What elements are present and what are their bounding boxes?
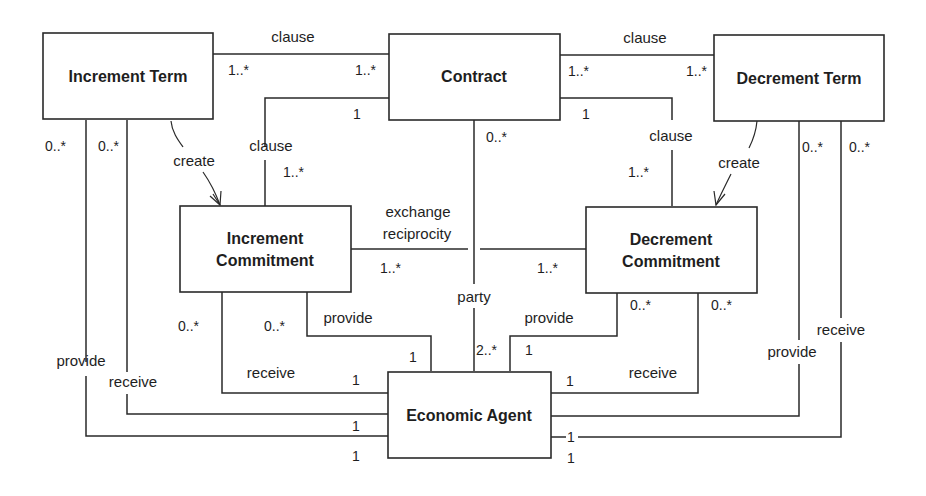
multiplicity: 1 — [409, 349, 417, 365]
assoc-dc-provide — [510, 292, 617, 371]
uml-diagram: Increment Term Contract Decrement Term I… — [0, 0, 926, 496]
assoc-it-receive-b — [127, 394, 388, 414]
multiplicity: 0..* — [45, 138, 67, 154]
multiplicity: 0..* — [98, 138, 120, 154]
multiplicity: 1..* — [568, 63, 590, 79]
label-receive: receive — [817, 321, 865, 338]
create-dep-left-a — [171, 121, 183, 147]
multiplicity: 1 — [525, 342, 533, 358]
label-create: create — [173, 152, 215, 169]
multiplicity: 1..* — [355, 62, 377, 78]
multiplicity: 1..* — [628, 164, 650, 180]
class-increment-term[interactable]: Increment Term — [43, 33, 213, 119]
multiplicity: 1 — [582, 106, 590, 122]
class-name-line1: Decrement — [630, 231, 713, 248]
create-dep-right-b — [716, 174, 731, 205]
label-party: party — [457, 288, 491, 305]
class-name-line2: Commitment — [216, 252, 314, 269]
multiplicity: 1..* — [686, 63, 708, 79]
class-name-line2: Commitment — [622, 253, 720, 270]
label-provide: provide — [524, 309, 573, 326]
multiplicity: 0..* — [178, 318, 200, 334]
class-name: Contract — [441, 68, 507, 85]
multiplicity: 0..* — [486, 129, 508, 145]
multiplicity: 1 — [566, 373, 574, 389]
label-provide: provide — [323, 309, 372, 326]
multiplicity: 1 — [352, 372, 360, 388]
label-exchange: exchange — [385, 203, 450, 220]
label-receive: receive — [629, 364, 677, 381]
multiplicity: 0..* — [802, 139, 824, 155]
label-clause: clause — [271, 28, 314, 45]
label-create: create — [718, 154, 760, 171]
multiplicity: 1..* — [380, 260, 402, 276]
multiplicity: 1..* — [537, 260, 559, 276]
class-decrement-commitment[interactable]: Decrement Commitment — [586, 207, 757, 293]
class-name: Increment Term — [69, 68, 188, 85]
multiplicity: 1..* — [283, 164, 305, 180]
class-decrement-term[interactable]: Decrement Term — [714, 35, 884, 121]
multiplicity: 1 — [352, 418, 360, 434]
label-clause: clause — [249, 137, 292, 154]
class-name-line1: Increment — [227, 230, 304, 247]
multiplicity: 0..* — [264, 318, 286, 334]
multiplicity: 1 — [353, 106, 361, 122]
class-economic-agent[interactable]: Economic Agent — [388, 372, 551, 458]
class-name: Decrement Term — [736, 70, 861, 87]
label-clause: clause — [623, 29, 666, 46]
label-clause: clause — [649, 127, 692, 144]
multiplicity: 1 — [567, 450, 575, 466]
multiplicity: 2..* — [476, 342, 498, 358]
class-increment-commitment[interactable]: Increment Commitment — [180, 206, 351, 292]
label-receive: receive — [109, 373, 157, 390]
multiplicity: 0..* — [711, 297, 733, 313]
label-reciprocity: reciprocity — [383, 225, 452, 242]
create-dep-right-a — [749, 121, 757, 148]
multiplicity: 0..* — [630, 297, 652, 313]
class-name: Economic Agent — [406, 407, 532, 424]
label-provide: provide — [767, 343, 816, 360]
label-provide: provide — [56, 352, 105, 369]
multiplicity: 1..* — [228, 62, 250, 78]
multiplicity: 0..* — [849, 139, 871, 155]
multiplicity: 1 — [352, 448, 360, 464]
assoc-contract-dc-a — [560, 98, 672, 120]
label-receive: receive — [247, 364, 295, 381]
class-contract[interactable]: Contract — [389, 34, 560, 120]
multiplicity: 1 — [567, 429, 575, 445]
